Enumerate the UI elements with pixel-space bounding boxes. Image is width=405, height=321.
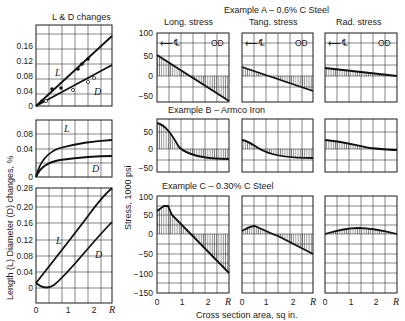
- series-label-l: L: [54, 67, 61, 78]
- left-y-axis-label: Length (L) Diameter (D) changes, %: [5, 155, 15, 300]
- svg-text:0: 0: [323, 297, 328, 307]
- svg-text:℄: ℄: [341, 38, 348, 48]
- svg-text:R: R: [392, 296, 399, 307]
- svg-text:0: 0: [155, 297, 160, 307]
- example-a-title: Example A – 0.6% C Steel: [224, 5, 329, 15]
- stress-y-axis-label: Stress, 1000 psi: [123, 165, 133, 230]
- svg-text:0: 0: [148, 229, 153, 239]
- svg-text:0.20: 0.20: [16, 202, 33, 212]
- svg-text:⟵: ⟵: [328, 38, 341, 48]
- svg-text:D: D: [94, 249, 103, 260]
- svg-text:2: 2: [291, 297, 296, 307]
- svg-text:0.28: 0.28: [16, 183, 33, 193]
- svg-text:2: 2: [374, 297, 379, 307]
- svg-text:0.04: 0.04: [16, 86, 33, 96]
- col-title-tang: Tang. stress: [249, 17, 298, 27]
- svg-text:2: 2: [206, 297, 211, 307]
- svg-text:OD: OD: [295, 38, 308, 48]
- svg-text:1: 1: [349, 297, 354, 307]
- svg-text:R: R: [309, 296, 316, 307]
- col-title-long: Long. stress: [164, 17, 214, 27]
- svg-text:−50: −50: [139, 249, 154, 259]
- svg-text:0.04: 0.04: [16, 144, 33, 154]
- svg-text:0.08: 0.08: [16, 251, 33, 261]
- svg-text:0: 0: [148, 144, 153, 154]
- svg-text:0: 0: [240, 297, 245, 307]
- svg-text:OD: OD: [378, 38, 391, 48]
- svg-text:0.12: 0.12: [16, 56, 33, 66]
- svg-text:50: 50: [144, 51, 154, 61]
- svg-text:0: 0: [28, 283, 33, 293]
- svg-text:℄: ℄: [258, 38, 265, 48]
- svg-text:50: 50: [144, 127, 154, 137]
- svg-text:50: 50: [144, 210, 154, 220]
- svg-text:0.12: 0.12: [16, 235, 33, 245]
- svg-text:2: 2: [92, 305, 97, 315]
- svg-text:R: R: [108, 304, 115, 315]
- svg-text:0: 0: [34, 305, 39, 315]
- svg-text:1: 1: [264, 297, 269, 307]
- svg-text:−50: −50: [139, 163, 154, 173]
- series-label-d: D: [93, 86, 102, 97]
- svg-text:0.08: 0.08: [16, 129, 33, 139]
- svg-text:L: L: [63, 123, 70, 134]
- svg-text:D: D: [91, 163, 100, 174]
- svg-text:0.16: 0.16: [16, 218, 33, 228]
- col-title-rad: Rad. stress: [336, 17, 382, 27]
- svg-text:0.04: 0.04: [16, 267, 33, 277]
- svg-text:−100: −100: [134, 269, 153, 279]
- ld-panel-b: L D 0.08 0.04 0: [16, 120, 112, 182]
- svg-text:℄: ℄: [173, 38, 180, 48]
- stress-row-c: 100 50 0 −50 −100 −150 0 1 2 R: [134, 192, 399, 307]
- svg-text:0: 0: [148, 71, 153, 81]
- svg-text:100: 100: [139, 192, 153, 202]
- svg-text:⟵: ⟵: [245, 38, 258, 48]
- stress-x-axis-label: Cross section area, sq in.: [196, 310, 298, 320]
- svg-text:0: 0: [28, 172, 33, 182]
- svg-text:1: 1: [180, 297, 185, 307]
- ld-panel-a: L D 0.16 0.12 0.08 0.04 0: [16, 25, 112, 111]
- example-c-title: Example C – 0.30% C Steel: [162, 181, 274, 191]
- svg-text:⟵: ⟵: [160, 38, 173, 48]
- svg-text:0: 0: [28, 101, 33, 111]
- svg-text:L: L: [55, 235, 62, 246]
- stress-row-a: 100 50 0 −50: [139, 28, 397, 102]
- figure: Example A – 0.6% C Steel L & D changes L…: [0, 0, 405, 321]
- svg-text:−150: −150: [134, 288, 153, 298]
- svg-text:100: 100: [139, 28, 153, 38]
- svg-text:0.16: 0.16: [16, 41, 33, 51]
- svg-text:R: R: [224, 296, 231, 307]
- stress-row-b: 50 0 −50: [139, 119, 397, 173]
- ld-title: L & D changes: [52, 12, 111, 22]
- example-b-title: Example B – Armco Iron: [168, 105, 265, 115]
- svg-text:−50: −50: [139, 91, 154, 101]
- ld-panel-c: L D 0.28 0.20 0.16 0.12 0.08 0.04 0 0 1 …: [16, 183, 115, 315]
- svg-text:OD: OD: [211, 38, 224, 48]
- svg-text:1: 1: [66, 305, 71, 315]
- svg-text:0.08: 0.08: [16, 71, 33, 81]
